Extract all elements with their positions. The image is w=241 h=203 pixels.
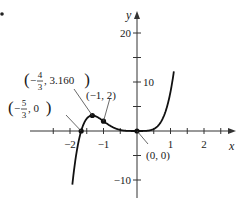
y-tick-label: −10	[114, 174, 132, 186]
annotation-neg-four-thirds: (−43, 3.160)	[24, 70, 90, 92]
paren-close: )	[46, 98, 52, 117]
denominator: 3	[22, 110, 27, 120]
paren-close: )	[84, 70, 90, 89]
x-tick-label: 2	[201, 138, 207, 150]
x-tick-label: −2	[64, 138, 76, 150]
y-tick-label: 20	[120, 27, 132, 39]
leader-line	[66, 115, 81, 131]
denominator: 3	[38, 82, 43, 92]
leader-line	[137, 131, 148, 144]
numerator: 4	[38, 70, 43, 80]
minus-sign: −	[30, 74, 36, 86]
annotation-neg-one-two: (−1, 2)	[86, 89, 116, 102]
y-axis-label: y	[125, 8, 132, 22]
x-tick-label: −1	[98, 138, 110, 150]
annotation-value: , 0	[28, 102, 40, 114]
annotation-origin: (0, 0)	[146, 149, 170, 162]
numerator: 5	[22, 98, 27, 108]
bullet-dot	[0, 12, 4, 16]
leader-line	[104, 98, 111, 121]
annotation-neg-five-thirds: (−53, 0)	[8, 98, 51, 120]
minus-sign: −	[14, 102, 20, 114]
x-axis-arrow-icon	[228, 128, 236, 134]
annotation-value: , 3.160	[44, 74, 75, 86]
axes: −2−112−101020xy	[30, 8, 236, 198]
function-graph: −2−112−101020xy (−53, 0)(−43, 3.160)(−1,…	[0, 0, 241, 203]
y-tick-label: 10	[143, 76, 155, 88]
x-axis-label: x	[228, 139, 235, 153]
data-point	[90, 113, 95, 118]
y-axis-arrow-icon	[134, 11, 140, 19]
